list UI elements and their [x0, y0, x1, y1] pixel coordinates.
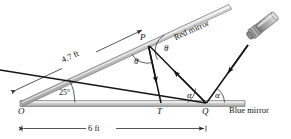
blue-mirror-label: Blue mirror [229, 106, 269, 115]
point-label-p: P [140, 33, 146, 42]
angle-label-alpha-right: α [215, 91, 220, 100]
blue-mirror-bar [20, 101, 245, 107]
reflection-geometry-figure: Red mirror Blue mirror O P T Q 25° θ θ α… [0, 0, 291, 139]
point-label-t: T [157, 107, 162, 116]
point-label-q: Q [202, 107, 209, 116]
angle-label-theta-upper: θ [164, 44, 168, 53]
angle-label-theta-lower: θ [134, 57, 138, 66]
figure-canvas [0, 0, 291, 139]
angle-label-25deg: 25° [59, 89, 70, 97]
dimension-line-4-7ft [16, 30, 142, 90]
angle-label-alpha-left: α [187, 91, 192, 100]
flashlight-icon [245, 10, 280, 41]
point-label-o: O [18, 107, 25, 116]
dimension-line-6ft [22, 126, 206, 132]
dimension-label-6ft: 6 ft [88, 124, 100, 133]
